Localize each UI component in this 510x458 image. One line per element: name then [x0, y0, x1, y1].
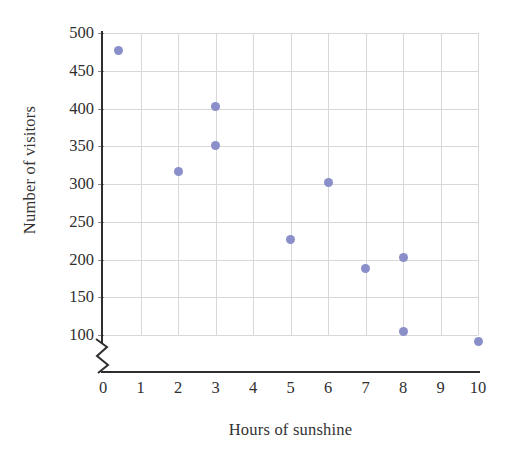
- gridline-vertical: [478, 33, 479, 335]
- y-axis-tick-label: 500: [50, 25, 94, 42]
- x-axis-tick-label: 2: [163, 380, 193, 397]
- data-point: [474, 337, 483, 346]
- data-point: [114, 46, 123, 55]
- gridline-vertical: [253, 33, 254, 335]
- x-axis-tick-label: 8: [388, 380, 418, 397]
- x-axis-line: [101, 371, 480, 373]
- gridline-horizontal: [103, 335, 478, 336]
- y-axis-tick-label: 300: [50, 176, 94, 193]
- x-axis-tick-label: 5: [276, 380, 306, 397]
- y-axis-title: Number of visitors: [17, 0, 43, 340]
- gridline-vertical: [178, 33, 179, 335]
- x-axis-title: Hours of sunshine: [103, 420, 478, 440]
- data-point: [361, 264, 370, 273]
- x-axis-tick-label: 1: [126, 380, 156, 397]
- y-axis-tick-label: 400: [50, 101, 94, 118]
- x-axis-tick-label: 7: [351, 380, 381, 397]
- x-axis-tick-label: 10: [463, 380, 493, 397]
- data-point: [211, 102, 220, 111]
- y-axis-tick-label: 350: [50, 138, 94, 155]
- x-axis-tick-label: 3: [201, 380, 231, 397]
- y-axis-tick-label: 250: [50, 214, 94, 231]
- data-point: [399, 253, 408, 262]
- x-axis-tick-label: 6: [313, 380, 343, 397]
- gridline-vertical: [441, 33, 442, 335]
- data-point: [211, 141, 220, 150]
- y-axis-tick-label: 450: [50, 63, 94, 80]
- y-axis-tick-labels: 100150200250300350400450500: [44, 0, 94, 458]
- gridline-vertical: [291, 33, 292, 335]
- plot-area: [103, 33, 478, 335]
- gridline-vertical: [141, 33, 142, 335]
- scatter-chart: Number of visitors 100150200250300350400…: [0, 0, 510, 458]
- y-axis-tick-label: 100: [50, 327, 94, 344]
- x-axis-tick-label: 4: [238, 380, 268, 397]
- y-axis-line: [101, 31, 103, 343]
- gridline-vertical: [216, 33, 217, 335]
- x-axis-tick-label: 9: [426, 380, 456, 397]
- data-point: [286, 235, 295, 244]
- data-point: [399, 327, 408, 336]
- gridline-vertical: [366, 33, 367, 335]
- y-axis-tick-label: 200: [50, 252, 94, 269]
- y-axis-tick-label: 150: [50, 289, 94, 306]
- gridline-vertical: [403, 33, 404, 335]
- x-axis-tick-label: 0: [88, 380, 118, 397]
- data-point: [324, 178, 333, 187]
- y-axis-break-icon: [93, 337, 117, 375]
- data-point: [174, 167, 183, 176]
